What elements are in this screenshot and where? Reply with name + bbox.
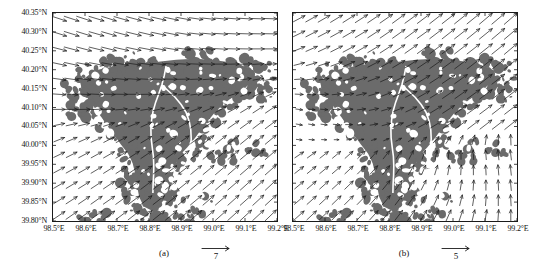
y-axis-tick-label: 40.25°N xyxy=(0,46,47,55)
x-axis-tick-label: 99.1°E xyxy=(469,224,503,233)
x-axis-tick-label: 99.0°E xyxy=(437,224,471,233)
y-axis-tick-label: 40.05°N xyxy=(0,121,47,130)
x-axis-tick-label: 98.6°E xyxy=(69,224,103,233)
y-axis-tick-label: 40.00°N xyxy=(0,140,47,149)
x-axis-tick-label: 98.7°E xyxy=(101,224,135,233)
y-axis-tick-label: 40.35°N xyxy=(0,8,47,17)
panel-caption-a: (a) xyxy=(144,248,184,258)
reference-vector-value-panel-a: 7 xyxy=(196,252,236,261)
x-axis-tick-label: 99.0°E xyxy=(197,224,231,233)
plot-area-panel-a xyxy=(52,12,278,222)
vector-field-panel-a xyxy=(53,13,277,221)
x-axis-tick-label: 98.7°E xyxy=(341,224,375,233)
x-axis-tick-label: 99.1°E xyxy=(229,224,263,233)
wind-vector-figure: 40.35°N40.30°N40.25°N40.20°N40.15°N40.10… xyxy=(0,0,533,270)
vector-field-panel-b xyxy=(293,13,517,221)
y-axis-tick-label: 39.85°N xyxy=(0,197,47,206)
y-axis-tick-label: 40.20°N xyxy=(0,65,47,74)
y-axis-tick-label: 40.10°N xyxy=(0,103,47,112)
x-axis-tick-label: 98.6°E xyxy=(309,224,343,233)
reference-vector-scale-panel-a: 7 xyxy=(196,244,236,261)
panel-caption-b: (b) xyxy=(384,248,424,258)
x-axis-tick-label: 98.8°E xyxy=(373,224,407,233)
y-axis-tick-label: 40.30°N xyxy=(0,27,47,36)
x-axis-tick-label: 98.9°E xyxy=(405,224,439,233)
y-axis-tick-label: 39.95°N xyxy=(0,159,47,168)
reference-vector-scale-panel-b: 5 xyxy=(436,244,476,261)
x-axis-tick-label: 98.5°E xyxy=(277,224,311,233)
x-axis-tick-label: 98.8°E xyxy=(133,224,167,233)
plot-area-panel-b xyxy=(292,12,518,222)
x-axis-tick-label: 98.9°E xyxy=(165,224,199,233)
x-axis-tick-label: 99.2°E xyxy=(501,224,533,233)
y-axis-tick-label: 40.15°N xyxy=(0,84,47,93)
x-axis-tick-label: 98.5°E xyxy=(37,224,71,233)
y-axis-tick-label: 39.90°N xyxy=(0,178,47,187)
reference-vector-value-panel-b: 5 xyxy=(436,252,476,261)
